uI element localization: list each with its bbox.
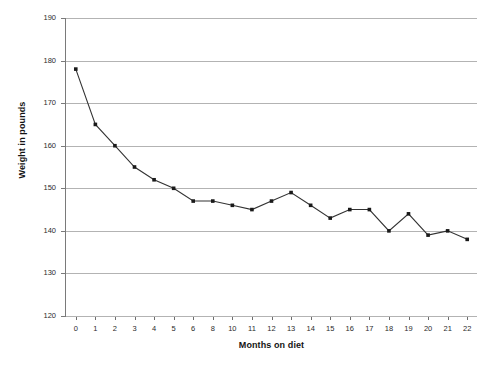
weight-series: [66, 18, 477, 316]
y-tick: 180: [22, 57, 56, 65]
x-tick-label: 22: [457, 324, 477, 333]
data-point-marker: [152, 178, 156, 182]
data-point-marker: [211, 199, 215, 203]
x-tick-label: 16: [340, 324, 360, 333]
data-point-marker: [250, 208, 254, 212]
data-point-marker: [94, 123, 98, 127]
x-tick-label: 2: [105, 324, 125, 333]
x-tick-label: 21: [438, 324, 458, 333]
y-tick: 150: [22, 184, 56, 192]
x-tick-label: 5: [164, 324, 184, 333]
data-point-marker: [348, 208, 352, 212]
x-tick-label: 11: [242, 324, 262, 333]
y-tick-label: 150: [30, 184, 56, 192]
x-axis-title: Months on diet: [66, 340, 477, 350]
y-tick-label: 160: [30, 142, 56, 150]
data-point-marker: [328, 216, 332, 220]
data-point-marker: [465, 238, 469, 242]
data-point-marker: [133, 165, 137, 169]
x-tick-label: 8: [203, 324, 223, 333]
y-tick-label: 180: [30, 57, 56, 65]
x-tick-label: 4: [144, 324, 164, 333]
data-point-marker: [270, 199, 274, 203]
x-tick-label: 3: [125, 324, 145, 333]
series-markers: [74, 67, 469, 241]
x-tick-label: 0: [66, 324, 86, 333]
x-tick-label: 6: [183, 324, 203, 333]
x-tick-label: 13: [281, 324, 301, 333]
y-tick-label: 170: [30, 99, 56, 107]
line-chart: 120130140150160170180190 012345681011121…: [0, 0, 503, 369]
x-tick-label: 18: [379, 324, 399, 333]
x-tick-label: 14: [301, 324, 321, 333]
data-point-marker: [446, 229, 450, 233]
x-tick-label: 10: [222, 324, 242, 333]
y-axis-title: Weight in pounds: [17, 70, 27, 210]
data-point-marker: [191, 199, 195, 203]
x-tick-label: 1: [85, 324, 105, 333]
data-point-marker: [74, 67, 78, 71]
data-point-marker: [426, 233, 430, 237]
y-tick: 130: [22, 269, 56, 277]
x-tick-label: 20: [418, 324, 438, 333]
data-point-marker: [113, 144, 117, 148]
data-point-marker: [368, 208, 372, 212]
y-tick: 160: [22, 142, 56, 150]
y-tick-label: 120: [30, 312, 56, 320]
data-point-marker: [231, 204, 235, 208]
gridline: [66, 316, 477, 317]
data-point-marker: [172, 186, 176, 190]
data-point-marker: [387, 229, 391, 233]
plot-area: [66, 18, 477, 316]
x-tick-label: 19: [399, 324, 419, 333]
x-tick-label: 15: [320, 324, 340, 333]
y-tick-label: 190: [30, 14, 56, 22]
y-tick: 170: [22, 99, 56, 107]
y-tick: 140: [22, 227, 56, 235]
data-point-marker: [309, 204, 313, 208]
data-point-marker: [407, 212, 411, 216]
y-tick-label: 140: [30, 227, 56, 235]
y-tick: 120: [22, 312, 56, 320]
y-tick-label: 130: [30, 269, 56, 277]
y-tick: 190: [22, 14, 56, 22]
data-point-marker: [289, 191, 293, 195]
x-tick-label: 12: [262, 324, 282, 333]
x-tick-label: 17: [359, 324, 379, 333]
